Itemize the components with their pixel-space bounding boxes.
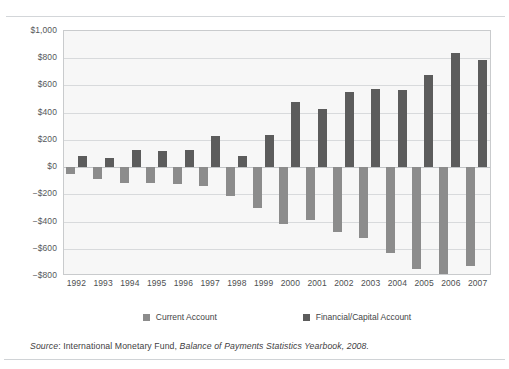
- bar-group: [91, 31, 118, 274]
- bar-financial-capital-account-1998: [238, 156, 247, 167]
- y-axis-tick-label: $800: [38, 52, 57, 62]
- bar-current-account-1996: [173, 167, 182, 184]
- bar-current-account-2006: [439, 167, 448, 275]
- bar-financial-capital-account-2002: [345, 92, 354, 167]
- bar-current-account-2004: [386, 167, 395, 253]
- bar-group: [197, 31, 224, 274]
- legend-item: Financial/Capital Account: [303, 312, 411, 322]
- bar-financial-capital-account-2007: [478, 60, 487, 168]
- y-axis-tick-label: $0: [47, 161, 57, 171]
- bar-current-account-2003: [359, 167, 368, 238]
- bar-current-account-2002: [333, 167, 342, 232]
- x-axis-tick-label: 2007: [464, 278, 491, 288]
- y-axis-tick-label: −$600: [33, 243, 57, 253]
- x-axis-tick-label: 2000: [277, 278, 304, 288]
- source-label: Source: [30, 341, 58, 351]
- bar-group: [463, 31, 490, 274]
- x-axis-tick-label: 2005: [411, 278, 438, 288]
- chart-legend: Current AccountFinancial/Capital Account: [63, 312, 491, 322]
- bar-current-account-1994: [120, 167, 129, 183]
- top-rule: [6, 16, 505, 17]
- legend-item-label: Current Account: [156, 312, 217, 322]
- bar-financial-capital-account-1992: [78, 156, 87, 167]
- x-axis-tick-label: 1994: [117, 278, 144, 288]
- figure-container: $1,000$800$600$400$200$0−$200−$400−$600−…: [0, 0, 509, 369]
- source-note: Source: International Monetary Fund, Bal…: [30, 341, 369, 351]
- bar-current-account-2000: [279, 167, 288, 223]
- y-axis-tick-label: −$200: [33, 188, 57, 198]
- x-axis-tick-label: 1999: [250, 278, 277, 288]
- plot-wrapper: $1,000$800$600$400$200$0−$200−$400−$600−…: [63, 30, 491, 275]
- legend-item-label: Financial/Capital Account: [316, 312, 411, 322]
- y-axis-tick-label: $400: [38, 107, 57, 117]
- bar-financial-capital-account-1994: [132, 150, 141, 167]
- bar-group: [277, 31, 304, 274]
- y-axis-tick-label: $1,000: [30, 25, 57, 35]
- bar-current-account-2005: [412, 167, 421, 268]
- bar-financial-capital-account-1997: [211, 136, 220, 167]
- bar-group: [357, 31, 384, 274]
- x-axis-tick-label: 1995: [143, 278, 170, 288]
- source-organization: International Monetary Fund,: [63, 341, 179, 351]
- source-publication-title: Balance of Payments Statistics Yearbook,…: [180, 341, 369, 351]
- bar-group: [144, 31, 171, 274]
- y-axis-tick-label: $600: [38, 79, 57, 89]
- x-axis-tick-label: 1997: [197, 278, 224, 288]
- x-axis-ticks: 1992199319941995199619971998199920002001…: [63, 278, 491, 288]
- bar-current-account-1993: [93, 167, 102, 179]
- bar-financial-capital-account-2000: [291, 102, 300, 167]
- bar-financial-capital-account-1993: [105, 158, 114, 168]
- bar-current-account-1995: [146, 167, 155, 183]
- bar-group: [117, 31, 144, 274]
- bar-group: [384, 31, 411, 274]
- y-axis-tick-label: $200: [38, 134, 57, 144]
- x-axis-tick-label: 1996: [170, 278, 197, 288]
- financial-capital-account-swatch: [303, 314, 310, 321]
- bar-financial-capital-account-1996: [185, 150, 194, 167]
- x-axis-tick-label: 2004: [384, 278, 411, 288]
- bar-financial-capital-account-1999: [265, 135, 274, 167]
- bottom-rule: [4, 359, 505, 360]
- bar-group: [410, 31, 437, 274]
- bar-current-account-1999: [253, 167, 262, 208]
- y-axis-tick-label: −$400: [33, 216, 57, 226]
- bar-current-account-1992: [66, 167, 75, 174]
- y-axis-tick-label: −$800: [33, 270, 57, 280]
- bar-group: [224, 31, 251, 274]
- bar-current-account-2007: [466, 167, 475, 266]
- bar-group: [64, 31, 91, 274]
- x-axis-tick-label: 1992: [63, 278, 90, 288]
- bar-financial-capital-account-2003: [371, 89, 380, 167]
- x-axis-tick-label: 1993: [90, 278, 117, 288]
- bar-group: [250, 31, 277, 274]
- bar-financial-capital-account-2005: [424, 75, 433, 168]
- x-axis-tick-label: 2001: [304, 278, 331, 288]
- bar-current-account-1998: [226, 167, 235, 196]
- x-axis-tick-label: 2003: [357, 278, 384, 288]
- legend-item: Current Account: [143, 312, 217, 322]
- plot-area: [63, 30, 491, 275]
- bar-group: [437, 31, 464, 274]
- bar-groups-layer: [64, 31, 490, 274]
- x-axis-tick-label: 1998: [224, 278, 251, 288]
- bar-group: [171, 31, 198, 274]
- bar-group: [304, 31, 331, 274]
- bar-group: [330, 31, 357, 274]
- bar-current-account-1997: [199, 167, 208, 186]
- current-account-swatch: [143, 314, 150, 321]
- bar-financial-capital-account-2006: [451, 53, 460, 167]
- x-axis-tick-label: 2002: [331, 278, 358, 288]
- bar-current-account-2001: [306, 167, 315, 220]
- bar-financial-capital-account-2004: [398, 90, 407, 167]
- bar-financial-capital-account-2001: [318, 109, 327, 167]
- x-axis-tick-label: 2006: [438, 278, 465, 288]
- bar-financial-capital-account-1995: [158, 151, 167, 167]
